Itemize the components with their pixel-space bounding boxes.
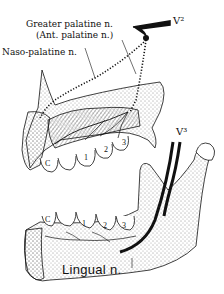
upper-tooth-2: 2 [104,146,108,154]
lower-tooth-2: 2 [103,222,107,230]
label-v3: V³ [176,127,187,137]
lower-tooth-3: 3 [122,222,126,230]
greater-palatine-leader [122,40,136,74]
label-greater-palatine: Greater palatine n. [26,20,113,29]
upper-tooth-3: 3 [122,139,126,147]
naso-palatine-leader [85,48,95,78]
figure-drawing [0,0,224,294]
lower-tooth-c: C [45,216,50,224]
label-v2: V² [173,16,184,26]
maxilla [22,70,164,172]
upper-tooth-1: 1 [84,154,88,162]
label-lingual: Lingual n. [62,263,121,276]
upper-tooth-c: C [45,160,50,168]
anatomy-figure: Greater palatine n. (Ant. palatine n.) N… [0,0,224,294]
label-ant-palatine: (Ant. palatine n.) [36,31,113,40]
v2-nerve-trunk [133,21,170,36]
lower-tooth-1: 1 [82,220,86,228]
label-naso-palatine: Naso-palatine n. [2,48,77,57]
